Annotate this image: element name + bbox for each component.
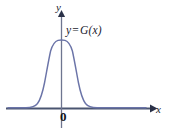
- figure-container: y x 0 y=G(x): [0, 0, 170, 136]
- plot-canvas: [0, 0, 170, 136]
- gaussian-curve: [8, 40, 146, 108]
- origin-label: 0: [60, 110, 67, 123]
- x-axis-label: x: [156, 104, 161, 115]
- y-axis-label: y: [56, 2, 61, 13]
- function-label-expression: G(x): [80, 24, 102, 36]
- function-label: y=G(x): [66, 25, 102, 37]
- function-label-equals: =: [71, 24, 80, 36]
